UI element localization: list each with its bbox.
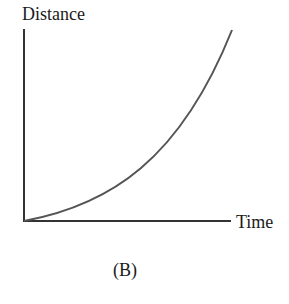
distance-time-graph — [0, 0, 289, 304]
y-axis-label: Distance — [22, 5, 85, 23]
x-axis-label: Time — [236, 213, 273, 231]
distance-curve — [24, 30, 232, 221]
figure-caption: (B) — [113, 261, 137, 279]
